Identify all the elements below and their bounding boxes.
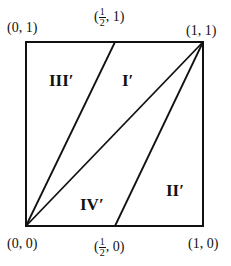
region-I: I′ [122,72,133,89]
fraction-half: 12 [99,237,106,258]
fraction-half: 12 [99,7,106,28]
label-top-midpoint: (12, 1) [94,7,124,28]
label-top-left: (0, 1) [7,21,37,35]
diagram-canvas [0,0,231,266]
region-II: II′ [166,182,184,199]
label-bottom-right: (1, 0) [188,237,218,251]
label-bottom-left: (0, 0) [7,237,37,251]
line-bottom-mid-to-top-right [115,42,203,226]
region-III: III′ [49,72,74,89]
label-bottom-midpoint: (12, 0) [94,237,124,258]
label-top-right: (1, 1) [186,24,216,38]
region-IV: IV′ [80,196,104,213]
